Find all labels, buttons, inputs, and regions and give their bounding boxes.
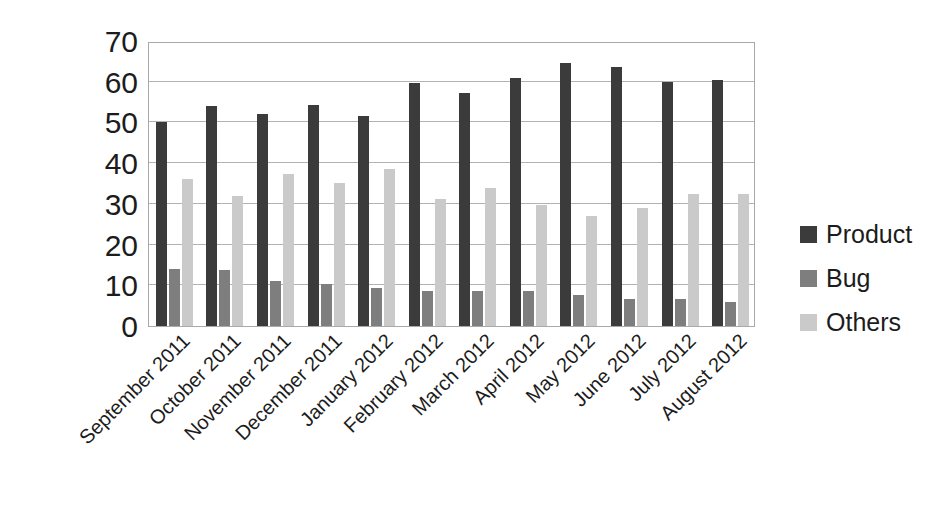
y-axis: 706050403020100 <box>60 42 138 327</box>
bar-product[interactable] <box>308 105 319 326</box>
bar-product[interactable] <box>712 80 723 326</box>
bar-product[interactable] <box>358 116 369 326</box>
bar-group <box>611 43 648 326</box>
bar-product[interactable] <box>459 93 470 326</box>
bar-bug[interactable] <box>321 284 332 326</box>
bar-product[interactable] <box>409 83 420 326</box>
bar-bug[interactable] <box>675 299 686 326</box>
bar-chart: 706050403020100 September 2011October 20… <box>0 0 950 517</box>
bar-others[interactable] <box>637 208 648 326</box>
bar-product[interactable] <box>257 114 268 326</box>
y-axis-tick-40: 40 <box>60 149 138 179</box>
legend-item-product[interactable]: Product <box>800 212 945 256</box>
bar-bug[interactable] <box>523 291 534 326</box>
y-axis-tick-10: 10 <box>60 271 138 301</box>
legend-label: Others <box>826 310 901 335</box>
bar-others[interactable] <box>182 179 193 326</box>
chart-legend: ProductBugOthers <box>800 212 945 344</box>
bar-bug[interactable] <box>624 299 635 326</box>
bar-product[interactable] <box>156 122 167 326</box>
bars-layer <box>149 43 754 326</box>
bar-others[interactable] <box>283 174 294 326</box>
bar-others[interactable] <box>384 169 395 326</box>
bar-product[interactable] <box>510 78 521 326</box>
x-axis-labels: September 2011October 2011November 2011D… <box>0 330 950 490</box>
legend-swatch-product-icon <box>800 226 817 243</box>
bar-bug[interactable] <box>270 281 281 326</box>
legend-swatch-bug-icon <box>800 270 817 287</box>
bar-group <box>560 43 597 326</box>
bar-group <box>662 43 699 326</box>
bar-bug[interactable] <box>219 270 230 326</box>
plot-area <box>148 42 755 327</box>
bar-others[interactable] <box>586 216 597 326</box>
bar-bug[interactable] <box>573 295 584 326</box>
bar-others[interactable] <box>688 194 699 326</box>
bar-product[interactable] <box>611 67 622 326</box>
bar-bug[interactable] <box>422 291 433 326</box>
bar-group <box>358 43 395 326</box>
bar-bug[interactable] <box>169 269 180 326</box>
bar-product[interactable] <box>662 82 673 326</box>
bar-others[interactable] <box>334 183 345 326</box>
bar-group <box>257 43 294 326</box>
bar-product[interactable] <box>560 63 571 326</box>
bar-group <box>510 43 547 326</box>
bar-others[interactable] <box>536 205 547 326</box>
legend-label: Bug <box>826 266 870 291</box>
legend-item-bug[interactable]: Bug <box>800 256 945 300</box>
bar-others[interactable] <box>435 199 446 326</box>
bar-group <box>206 43 243 326</box>
y-axis-tick-70: 70 <box>60 27 138 57</box>
bar-group <box>409 43 446 326</box>
bar-bug[interactable] <box>371 288 382 326</box>
legend-label: Product <box>826 222 912 247</box>
bar-bug[interactable] <box>472 291 483 326</box>
y-axis-tick-60: 60 <box>60 68 138 98</box>
y-axis-tick-50: 50 <box>60 108 138 138</box>
bar-others[interactable] <box>738 194 749 326</box>
legend-swatch-others-icon <box>800 314 817 331</box>
legend-item-others[interactable]: Others <box>800 300 945 344</box>
bar-group <box>156 43 193 326</box>
bar-bug[interactable] <box>725 302 736 326</box>
bar-others[interactable] <box>485 188 496 326</box>
bar-group <box>459 43 496 326</box>
y-axis-tick-30: 30 <box>60 190 138 220</box>
bar-group <box>712 43 749 326</box>
y-axis-tick-20: 20 <box>60 231 138 261</box>
bar-others[interactable] <box>232 196 243 326</box>
bar-product[interactable] <box>206 106 217 326</box>
bar-group <box>308 43 345 326</box>
